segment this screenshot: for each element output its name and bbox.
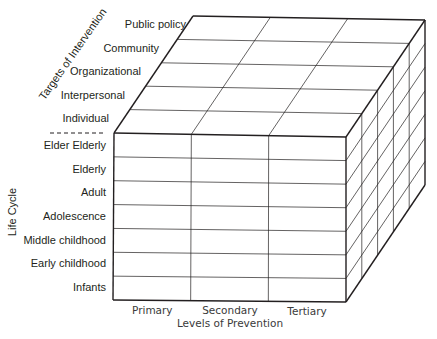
grid-line	[113, 276, 346, 278]
grid-line	[346, 114, 425, 231]
grid-line	[113, 133, 114, 300]
grid-line	[113, 252, 346, 255]
grid-line	[346, 20, 425, 137]
lifecycle-label-elder-elderly: Elder Elderly	[44, 139, 106, 151]
grid-line	[346, 67, 425, 184]
grid-line	[177, 39, 409, 43]
grid-line	[161, 63, 393, 67]
grid-line	[191, 17, 270, 134]
prevention-label-tertiary: Tertiary	[282, 305, 332, 317]
lifecycle-label-adolescence: Adolescence	[43, 210, 106, 222]
grid-line	[346, 44, 425, 161]
lifecycle-label-middle-childhood: Middle childhood	[23, 234, 106, 246]
prevention-label-secondary: Secondary	[200, 304, 260, 316]
lifecycle-label-adult: Adult	[81, 186, 106, 198]
grid-line	[113, 300, 346, 302]
grid-line	[193, 16, 425, 20]
cube-diagram	[0, 0, 437, 339]
life-cycle-title: Life Cycle	[6, 188, 18, 236]
levels-of-prevention-title: Levels of Prevention	[170, 317, 290, 329]
target-label-public-policy: Public policy	[125, 18, 186, 30]
target-label-interpersonal: Interpersonal	[61, 89, 125, 101]
lifecycle-label-elderly: Elderly	[72, 163, 106, 175]
target-label-community: Community	[103, 42, 159, 54]
grid-line	[113, 228, 346, 231]
grid-line	[269, 19, 348, 136]
grid-line	[114, 205, 346, 208]
grid-line	[146, 86, 378, 90]
grid-line	[191, 134, 192, 300]
target-label-individual: Individual	[63, 112, 109, 124]
lifecycle-label-early-childhood: Early childhood	[31, 257, 106, 269]
grid-line	[346, 185, 425, 302]
grid-line	[346, 138, 425, 255]
grid-line	[114, 133, 346, 137]
grid-line	[114, 157, 346, 161]
target-label-organizational: Organizational	[70, 65, 141, 77]
lifecycle-label-infants: Infants	[73, 281, 106, 293]
grid-line	[114, 181, 346, 184]
grid-line	[346, 161, 425, 278]
grid-line	[130, 110, 362, 114]
prevention-label-primary: Primary	[132, 304, 172, 316]
grid-line	[346, 91, 425, 208]
